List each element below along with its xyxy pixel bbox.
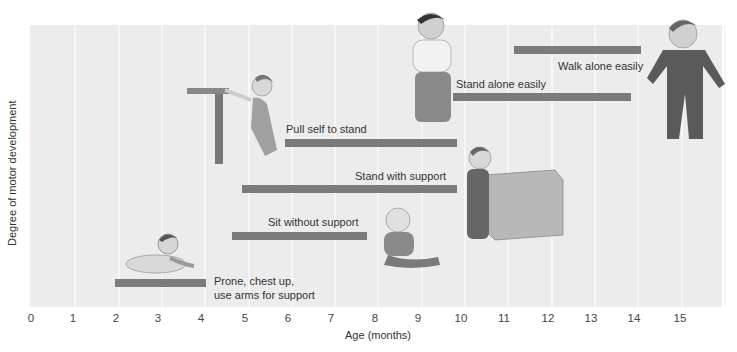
gridline — [334, 25, 336, 307]
infant-sitting-illustration — [370, 205, 445, 275]
infant-pulling-up-illustration — [185, 68, 285, 168]
label-sit-without-support: Sit without support — [268, 216, 359, 229]
x-tick-2: 2 — [113, 312, 119, 324]
y-axis-label: Degree of motor development — [6, 100, 18, 246]
x-tick-5: 5 — [242, 312, 248, 324]
toddler-at-box-illustration — [455, 140, 565, 245]
label-prone-line1: Prone, chest up, — [214, 275, 294, 288]
toddler-walking-illustration — [645, 14, 737, 149]
x-tick-0: 0 — [28, 312, 34, 324]
x-tick-8: 8 — [372, 312, 378, 324]
infant-prone-illustration — [120, 228, 200, 276]
gridline — [74, 25, 76, 307]
label-prone-line2: use arms for support — [214, 289, 315, 302]
bar-sit-without-support — [232, 232, 367, 240]
x-tick-11: 11 — [498, 312, 510, 324]
label-walk-alone-easily: Walk alone easily — [558, 60, 643, 73]
x-tick-7: 7 — [328, 312, 334, 324]
x-tick-12: 12 — [542, 312, 555, 324]
bar-walk-alone-easily — [514, 46, 641, 54]
x-tick-4: 4 — [198, 312, 204, 324]
x-tick-3: 3 — [155, 312, 161, 324]
x-tick-1: 1 — [70, 312, 76, 324]
bar-stand-alone-easily — [453, 93, 631, 101]
x-axis-label: Age (months) — [345, 329, 411, 341]
bar-pull-self-to-stand — [285, 139, 457, 147]
x-tick-10: 10 — [455, 312, 468, 324]
bar-prone — [115, 279, 206, 287]
label-pull-self-to-stand: Pull self to stand — [286, 123, 367, 136]
x-tick-6: 6 — [285, 312, 291, 324]
x-tick-15: 15 — [674, 312, 687, 324]
x-tick-9: 9 — [415, 312, 421, 324]
label-stand-with-support: Stand with support — [355, 170, 446, 183]
x-tick-14: 14 — [628, 312, 641, 324]
bar-stand-with-support — [242, 185, 457, 193]
x-tick-13: 13 — [585, 312, 598, 324]
gridline — [291, 25, 293, 307]
toddler-standing-alone-illustration — [395, 8, 470, 128]
